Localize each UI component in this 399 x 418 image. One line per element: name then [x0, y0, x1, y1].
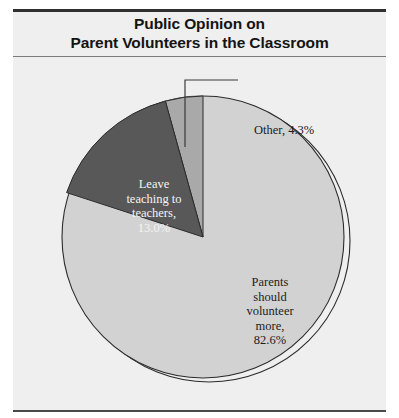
rule-top [13, 9, 386, 12]
chart-title-line-1: Public Opinion on [13, 14, 386, 33]
pie-label-other: Other, 4.3% [254, 123, 314, 138]
plot-area: Parents should volunteer more, 82.6% Lea… [13, 57, 386, 410]
chart-title-line-2: Parent Volunteers in the Classroom [13, 33, 386, 52]
rule-bottom [13, 410, 386, 412]
pie-chart-svg [13, 57, 386, 410]
chart-figure: Public Opinion on Parent Volunteers in t… [0, 0, 399, 418]
chart-title: Public Opinion on Parent Volunteers in t… [13, 14, 386, 52]
